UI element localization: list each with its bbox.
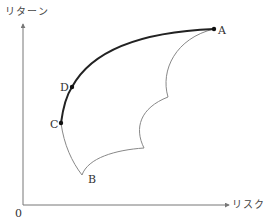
point-d-marker	[70, 85, 74, 89]
point-a-marker	[212, 27, 216, 31]
point-c-label: C	[50, 119, 58, 130]
point-a-label: A	[218, 25, 226, 36]
point-d-label: D	[60, 82, 69, 93]
y-axis-label: リターン	[5, 7, 49, 17]
efficient-frontier-curve	[61, 29, 214, 123]
feasible-region-boundary	[61, 29, 214, 175]
point-c-marker	[59, 121, 63, 125]
risk-return-diagram	[0, 0, 266, 224]
origin-label: 0	[15, 208, 22, 219]
point-b-label: B	[88, 174, 96, 185]
x-axis-label: リスク	[232, 200, 265, 210]
